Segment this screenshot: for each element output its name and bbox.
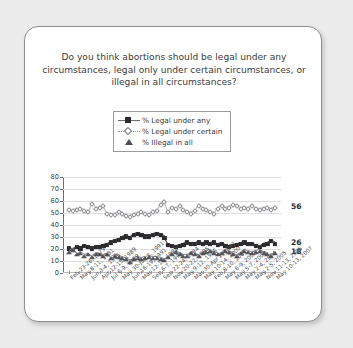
grid-line <box>63 201 281 202</box>
y-axis-labels: 01020304050607080 <box>43 177 59 273</box>
x-tick-mark <box>90 271 91 274</box>
chart-legend: % Legal under any % Legal under certain … <box>113 111 231 152</box>
legend-label: % Legal under any <box>140 116 210 125</box>
y-tick-label: 10 <box>43 257 59 265</box>
grid-line <box>63 189 281 190</box>
grid-line <box>63 213 281 214</box>
chart-card: Do you think abortions should be legal u… <box>24 26 322 322</box>
filled-square-icon <box>118 115 140 126</box>
y-tick-label: 0 <box>43 269 59 277</box>
y-tick-label: 60 <box>43 197 59 205</box>
legend-item-legal-under-certain: % Legal under certain <box>118 126 226 137</box>
plot-area: 01020304050607080 562618 Feb 23-26, 1979… <box>25 177 322 322</box>
legend-item-legal-under-any: % Legal under any <box>118 115 226 126</box>
x-axis-labels: Feb 23-26, 1979May 8-11, 1981Jun 3-4, 19… <box>63 274 313 322</box>
x-tick-mark <box>193 271 194 274</box>
y-tick-mark <box>60 249 63 250</box>
data-point <box>272 205 278 211</box>
y-tick-mark <box>60 261 63 262</box>
page-title: Do you think abortions should be legal u… <box>37 51 311 89</box>
y-tick-mark <box>60 225 63 226</box>
y-tick-label: 70 <box>43 185 59 193</box>
open-diamond-icon <box>118 126 140 137</box>
grid-line <box>63 177 281 178</box>
y-tick-label: 20 <box>43 245 59 253</box>
legend-item-illegal-in-all: % Illegal in all <box>118 137 226 148</box>
y-tick-mark <box>60 201 63 202</box>
x-tick-mark <box>162 271 163 274</box>
filled-triangle-icon <box>118 137 140 148</box>
data-point <box>165 210 171 216</box>
legend-label: % Illegal in all <box>140 138 193 147</box>
data-point <box>85 210 91 216</box>
y-tick-label: 30 <box>43 233 59 241</box>
grid-line <box>63 225 281 226</box>
y-tick-mark <box>60 237 63 238</box>
y-tick-label: 50 <box>43 209 59 217</box>
end-value-label: 56 <box>291 201 302 210</box>
y-tick-mark <box>60 177 63 178</box>
grid-line <box>63 237 281 238</box>
y-tick-mark <box>60 189 63 190</box>
x-tick-mark <box>121 271 122 274</box>
x-tick-mark <box>224 271 225 274</box>
data-point <box>162 199 168 205</box>
y-tick-mark <box>60 213 63 214</box>
end-value-label: 26 <box>291 237 302 246</box>
data-point <box>70 248 76 252</box>
legend-label: % Legal under certain <box>140 127 222 136</box>
y-tick-label: 80 <box>43 173 59 181</box>
data-point <box>273 242 277 246</box>
y-tick-label: 40 <box>43 221 59 229</box>
data-point <box>211 211 217 217</box>
data-point <box>162 236 166 240</box>
x-tick-mark <box>265 271 266 274</box>
